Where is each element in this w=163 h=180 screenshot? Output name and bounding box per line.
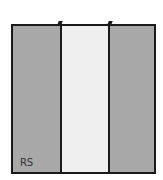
right-panel — [110, 26, 154, 172]
rs-label: RS — [20, 157, 33, 168]
outer-box: RS — [11, 24, 156, 174]
diagram-canvas: RS — [0, 0, 163, 180]
left-panel: RS — [13, 26, 60, 172]
center-panel — [60, 26, 110, 172]
